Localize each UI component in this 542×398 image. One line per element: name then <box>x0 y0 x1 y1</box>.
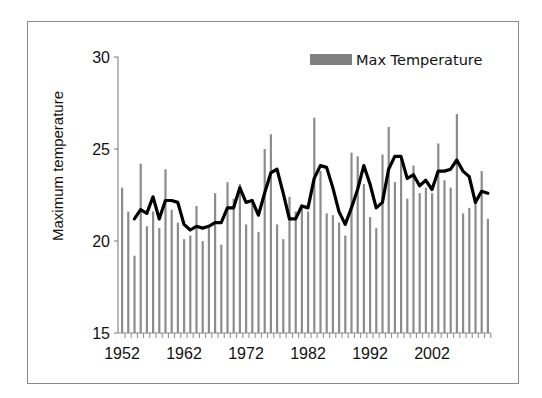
bar <box>220 245 222 333</box>
bar <box>394 182 396 333</box>
bar <box>468 208 470 333</box>
bar <box>419 193 421 333</box>
bar <box>425 188 427 333</box>
bar <box>133 256 135 333</box>
trend-line <box>134 156 487 230</box>
bar <box>140 164 142 333</box>
bar <box>251 201 253 333</box>
bar <box>127 212 129 333</box>
bar <box>375 228 377 333</box>
bar <box>313 118 315 333</box>
bar <box>412 166 414 333</box>
bar <box>214 193 216 333</box>
bar <box>462 213 464 333</box>
bar-series-max-temperature <box>121 114 489 333</box>
bar <box>245 224 247 333</box>
bar <box>183 239 185 333</box>
chart-plot: 15202530 195219621972198219922002 Max Te… <box>0 0 542 398</box>
bar <box>146 226 148 333</box>
bar <box>202 241 204 333</box>
bar <box>307 212 309 333</box>
bar <box>276 224 278 333</box>
legend-swatch <box>310 54 352 65</box>
bar <box>152 212 154 333</box>
bar <box>171 210 173 333</box>
bar <box>239 184 241 333</box>
bar <box>388 127 390 333</box>
y-tick-label: 30 <box>92 49 110 66</box>
legend: Max Temperature <box>310 52 483 68</box>
bar <box>443 180 445 333</box>
bar <box>350 153 352 333</box>
bar <box>474 201 476 333</box>
bar <box>295 212 297 333</box>
bar <box>158 228 160 333</box>
bar <box>282 239 284 333</box>
bar <box>208 228 210 333</box>
bar <box>257 232 259 333</box>
bar <box>332 215 334 333</box>
x-tick-label: 1982 <box>290 345 326 362</box>
x-tick-label: 2002 <box>414 345 450 362</box>
x-tick-label: 1972 <box>228 345 264 362</box>
y-tick-label: 15 <box>92 325 110 342</box>
bar <box>270 134 272 333</box>
bar <box>363 184 365 333</box>
bar <box>487 219 489 333</box>
y-axis: 15202530 <box>92 49 118 342</box>
y-tick-label: 25 <box>92 141 110 158</box>
bar <box>338 223 340 333</box>
y-tick-label: 20 <box>92 233 110 250</box>
x-tick-label: 1992 <box>352 345 388 362</box>
bar <box>301 208 303 333</box>
bar <box>226 182 228 333</box>
x-axis: 195219621972198219922002 <box>104 333 491 362</box>
bar <box>326 213 328 333</box>
bar <box>400 158 402 333</box>
bar <box>121 188 123 333</box>
bar <box>344 235 346 333</box>
bar <box>450 188 452 333</box>
bar <box>233 199 235 333</box>
bar <box>406 199 408 333</box>
bar <box>456 114 458 333</box>
x-tick-label: 1962 <box>166 345 202 362</box>
bar <box>177 223 179 333</box>
y-axis-label: Maximum temperature <box>49 91 66 241</box>
x-tick-label: 1952 <box>104 345 140 362</box>
trend-polyline <box>134 156 487 230</box>
bar <box>189 235 191 333</box>
bar <box>381 155 383 333</box>
bar <box>319 171 321 333</box>
bar <box>369 217 371 333</box>
bar <box>431 193 433 333</box>
bar <box>164 169 166 333</box>
legend-label: Max Temperature <box>356 52 483 68</box>
bar <box>264 149 266 333</box>
